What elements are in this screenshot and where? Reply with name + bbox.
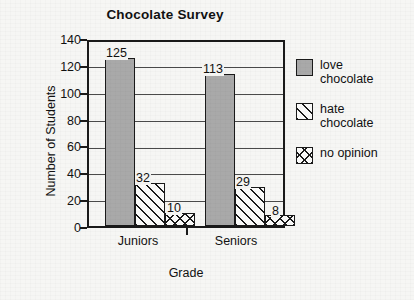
legend-label-love-chocolate: love chocolate: [320, 58, 374, 86]
legend-item-no-opinion: no opinion: [296, 146, 411, 164]
legend-swatch-crosshatch-icon: [296, 147, 313, 164]
bar-seniors-hate: [235, 187, 265, 226]
bar-juniors-hate: [135, 183, 165, 226]
x-axis-group-divider-tick: [186, 228, 188, 235]
x-axis-label-juniors: Juniors: [93, 234, 183, 248]
bar-value-juniors-love: 125: [105, 47, 128, 60]
y-tick-label-60: 60: [37, 140, 81, 154]
y-tick-label-40: 40: [37, 167, 81, 181]
y-tick-mark-80: [80, 120, 87, 122]
bar-value-seniors-noopinion: 8: [271, 205, 280, 218]
x-axis-title: Grade: [87, 266, 285, 280]
x-axis-label-seniors: Seniors: [191, 234, 281, 248]
y-tick-mark-40: [80, 173, 87, 175]
y-tick-mark-20: [80, 200, 87, 202]
legend-item-hate-chocolate: hate chocolate: [296, 102, 411, 130]
legend-label-hate-chocolate: hate chocolate: [320, 102, 374, 130]
legend-swatch-solid-gray-icon: [296, 59, 313, 76]
bar-juniors-noopinion: [165, 213, 195, 226]
bar-juniors-love: [105, 58, 135, 226]
bar-value-juniors-hate: 32: [135, 172, 151, 185]
bar-value-seniors-love: 113: [202, 63, 224, 76]
y-tick-label-120: 120: [37, 60, 81, 74]
y-tick-mark-100: [80, 93, 87, 95]
bar-value-seniors-hate: 29: [235, 176, 251, 189]
plot-area: 125 32 10 113 29 8: [87, 40, 285, 228]
y-tick-label-80: 80: [37, 114, 81, 128]
bar-seniors-love: [205, 74, 235, 226]
chart-legend: love chocolate hate chocolate no opinion: [296, 58, 411, 180]
bar-value-juniors-noopinion: 10: [166, 202, 182, 215]
y-tick-mark-140: [80, 39, 87, 41]
legend-item-love-chocolate: love chocolate: [296, 58, 411, 86]
y-tick-mark-0: [80, 227, 87, 229]
legend-swatch-diagonal-hatch-icon: [296, 103, 313, 120]
y-tick-label-0: 0: [37, 221, 81, 235]
bar-seniors-noopinion: [265, 215, 295, 226]
legend-label-no-opinion: no opinion: [320, 146, 378, 160]
y-tick-label-140: 140: [37, 33, 81, 47]
y-tick-label-20: 20: [37, 194, 81, 208]
y-tick-mark-120: [80, 66, 87, 68]
y-tick-mark-60: [80, 146, 87, 148]
y-tick-label-100: 100: [37, 87, 81, 101]
chocolate-survey-chart: Chocolate Survey Number of Students 140 …: [0, 0, 414, 300]
chart-title: Chocolate Survey: [40, 7, 290, 22]
